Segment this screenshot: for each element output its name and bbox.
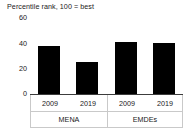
bar-mena-2019	[76, 62, 98, 94]
bar-chart: Percentile rank, 100 = best 60 40 20 0 2…	[0, 0, 189, 129]
year-label-mena-2009: 2009	[31, 98, 69, 110]
plot-area	[30, 18, 183, 94]
bar-emdes-2019	[153, 43, 175, 94]
category-label-box: 2009 2019 2009 2019 MENA EMDEs	[30, 95, 183, 128]
bar-slot-mena-2019	[68, 18, 106, 94]
bar-slot-emdes-2019	[145, 18, 183, 94]
group-label-mena: MENA	[31, 114, 107, 126]
y-tick-label-20: 20	[3, 65, 27, 73]
group-label-emdes: EMDEs	[107, 114, 183, 126]
bar-slot-emdes-2009	[107, 18, 145, 94]
bar-emdes-2009	[115, 42, 137, 94]
year-label-row: 2009 2019 2009 2019	[31, 97, 182, 110]
year-label-emdes-2009: 2009	[108, 98, 146, 110]
y-tick-label-40: 40	[3, 40, 27, 48]
year-label-emdes-2019: 2019	[146, 98, 184, 110]
group-label-row: MENA EMDEs	[31, 111, 182, 126]
bar-slot-mena-2009	[30, 18, 68, 94]
year-label-mena-2019: 2019	[69, 98, 107, 110]
y-axis-tick-labels: 60 40 20 0	[0, 0, 27, 129]
y-tick-label-0: 0	[3, 90, 27, 98]
bar-mena-2009	[38, 46, 60, 94]
y-tick-label-60: 60	[3, 14, 27, 22]
